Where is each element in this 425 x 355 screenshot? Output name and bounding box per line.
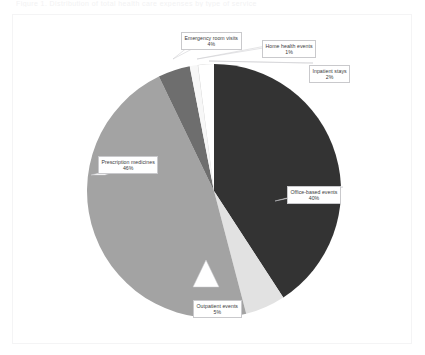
callout-label: Prescription medicines (102, 159, 155, 165)
callout-home-health-events[interactable]: Home health events 1% (262, 40, 316, 58)
callout-prescription-medicines[interactable]: Prescription medicines 46% (98, 156, 158, 174)
callout-percent: 40% (291, 195, 338, 201)
callout-label: Outpatient events (197, 303, 239, 309)
callout-emergency-room-visits[interactable]: Emergency room visits 4% (181, 32, 242, 50)
chart-plot-area: Emergency room visits 4% Home health eve… (12, 14, 412, 344)
callout-percent: 46% (102, 165, 155, 171)
leader-inpatient-stays (209, 61, 313, 63)
callout-office-based-events[interactable]: Office-based events 40% (287, 186, 341, 204)
callout-percent: 5% (197, 309, 239, 315)
callout-label: Home health events (266, 43, 313, 49)
pie-chart-figure: Figure 1. Distribution of total health c… (0, 0, 425, 355)
callout-percent: 1% (266, 49, 313, 55)
callout-percent: 2% (313, 74, 347, 80)
callout-label: Emergency room visits (185, 35, 239, 41)
callout-outpatient-events[interactable]: Outpatient events 5% (193, 300, 242, 318)
pie-graphic (13, 15, 411, 343)
callout-percent: 4% (185, 41, 239, 47)
callout-label: Inpatient stays (313, 68, 347, 74)
clipped-caption-text: Figure 1. Distribution of total health c… (16, 0, 316, 7)
callout-inpatient-stays[interactable]: Inpatient stays 2% (309, 65, 350, 83)
callout-label: Office-based events (291, 189, 338, 195)
